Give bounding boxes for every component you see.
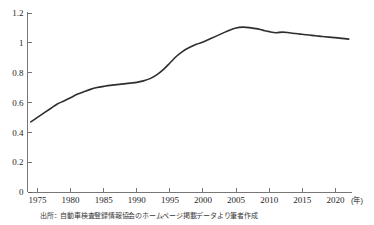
- y-tick-label: 0.8: [12, 68, 24, 78]
- y-tick-label: 0.2: [12, 157, 23, 167]
- x-tick-label: 2020: [326, 195, 345, 205]
- x-tick-label: 1995: [161, 195, 180, 205]
- x-tick-label: 2015: [293, 195, 312, 205]
- y-tick-label: 1: [19, 38, 24, 48]
- x-axis-labels: 1975198019851990199520002005201020152020: [28, 195, 345, 205]
- x-tick-label: 1975: [28, 195, 47, 205]
- y-axis-ticks: [28, 13, 32, 192]
- y-tick-label: 0: [19, 187, 24, 197]
- y-tick-label: 1.2: [12, 8, 23, 18]
- source-note: 出所：自動車検査登録情報協会のホームページ掲載データより筆者作成: [40, 211, 258, 220]
- line-chart: 00.20.40.60.811.2 1975198019851990199520…: [0, 0, 374, 225]
- x-tick-label: 2010: [260, 195, 279, 205]
- x-tick-label: 1985: [95, 195, 114, 205]
- x-tick-label: 2005: [227, 195, 246, 205]
- x-tick-label: 1980: [62, 195, 81, 205]
- x-axis-ticks: [37, 188, 335, 192]
- y-tick-label: 0.4: [12, 128, 24, 138]
- chart-figure: 00.20.40.60.811.2 1975198019851990199520…: [0, 0, 374, 225]
- y-axis-labels: 00.20.40.60.811.2: [12, 8, 24, 197]
- x-tick-label: 1990: [128, 195, 147, 205]
- y-tick-label: 0.6: [12, 98, 24, 108]
- x-tick-label: 2000: [194, 195, 213, 205]
- x-axis-unit-label: (年): [351, 195, 363, 205]
- data-series-line: [31, 27, 349, 122]
